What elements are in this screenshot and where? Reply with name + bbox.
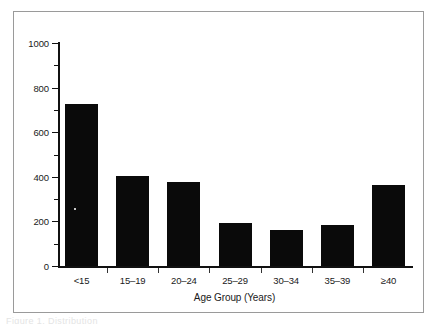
x-axis-tick (312, 268, 313, 273)
bar (321, 225, 354, 266)
bar (372, 185, 405, 266)
y-axis-tick-label: 0 (44, 261, 49, 272)
x-axis-tick (107, 268, 108, 273)
y-axis-tick-label: 1000 (28, 38, 49, 49)
x-axis-category-label: ≥40 (381, 275, 396, 286)
x-axis-tick (158, 268, 159, 273)
x-axis-ticks (58, 268, 413, 274)
bar (270, 230, 303, 266)
x-axis-category-label: 20–24 (171, 275, 197, 286)
x-axis-category-label: 35–39 (324, 275, 350, 286)
x-axis-category-label: 25–29 (222, 275, 248, 286)
scan-speck (74, 208, 76, 210)
caption-remnant: Figure 1. Distribution (6, 316, 176, 324)
bar (167, 182, 200, 266)
x-axis-category-label: 30–34 (273, 275, 299, 286)
figure-frame: 02004006008001000 <1515–1920–2425–2930–3… (13, 11, 424, 313)
y-axis-tick-label: 600 (33, 127, 49, 138)
x-axis-category-label: 15–19 (120, 275, 146, 286)
bar (219, 223, 252, 266)
x-axis-tick (209, 268, 210, 273)
x-axis-tick (363, 268, 364, 273)
bar (65, 104, 98, 266)
x-axis-title: Age Group (Years) (58, 292, 411, 303)
x-axis-category-label: <15 (74, 275, 90, 286)
x-axis-tick (261, 268, 262, 273)
y-axis-tick-label: 400 (33, 171, 49, 182)
y-axis-tick-label: 200 (33, 216, 49, 227)
y-axis: 02004006008001000 (14, 43, 58, 266)
y-axis-tick-label: 800 (33, 82, 49, 93)
x-axis-labels: <1515–1920–2425–2930–3435–39≥40 (58, 275, 411, 291)
scanned-figure-page: 02004006008001000 <1515–1920–2425–2930–3… (0, 0, 438, 326)
bar (116, 176, 149, 266)
plot-area (58, 43, 411, 266)
